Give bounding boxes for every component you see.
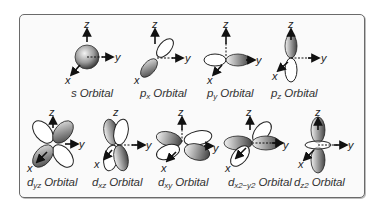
x-axis-label: x — [297, 158, 304, 170]
dyz-orbital-label: dyz Orbital — [27, 176, 77, 190]
z-axis-label: z — [314, 106, 321, 118]
z-axis-label: z — [287, 18, 294, 30]
py-orbital-label: py Orbital — [207, 87, 253, 101]
s-orbital-graphic: z y x — [62, 18, 124, 84]
x-axis-label: x — [160, 162, 167, 174]
x-axis-label: x — [64, 74, 71, 84]
y-axis-label: y — [212, 142, 220, 154]
x-axis-label: x — [93, 158, 100, 170]
dz2-orbital-graphic: z y x — [296, 106, 362, 174]
pz-orbital-label: pz Orbital — [271, 87, 317, 101]
dx2-y2-orbital-graphic: z y x — [222, 106, 294, 174]
z-axis-label: z — [177, 106, 184, 118]
y-axis-label: y — [114, 51, 122, 63]
dxz-orbital-graphic: z y x — [92, 106, 154, 174]
x-axis-label: x — [224, 162, 231, 174]
x-axis-label: x — [271, 70, 278, 82]
px-orbital-graphic: z y x — [130, 18, 192, 84]
dyz-orbital-graphic: z y x — [25, 106, 91, 174]
dxz-orbital-label: dxz Orbital — [92, 176, 142, 190]
y-axis-label: y — [184, 52, 192, 64]
dz2-orbital-label: dz2 Orbital — [294, 176, 345, 190]
z-axis-label: z — [151, 18, 158, 30]
x-axis-label: x — [206, 74, 213, 84]
y-axis-label: y — [255, 54, 262, 66]
x-axis-label: x — [26, 162, 33, 174]
s-orbital-label: s Orbital — [71, 87, 113, 99]
pz-orbital-graphic: z y x — [268, 18, 330, 84]
z-axis-label: z — [48, 106, 55, 118]
y-axis-label: y — [347, 139, 355, 151]
py-orbital-graphic: z y x — [200, 18, 262, 84]
px-orbital-label: px Orbital — [140, 87, 186, 101]
dx2-y2-orbital-label: dx2−y2 Orbital — [228, 176, 292, 190]
dxy-orbital-graphic: z y x — [152, 106, 224, 174]
z-axis-label: z — [245, 106, 252, 118]
y-axis-label: y — [320, 52, 328, 64]
y-axis-label: y — [78, 138, 86, 150]
dxy-orbital-label: dxy Orbital — [158, 176, 208, 190]
y-axis-label: y — [282, 139, 290, 151]
z-axis-label: z — [222, 18, 229, 30]
x-axis-label: x — [133, 74, 140, 84]
z-axis-label: z — [112, 106, 119, 118]
z-axis-label: z — [83, 18, 90, 30]
